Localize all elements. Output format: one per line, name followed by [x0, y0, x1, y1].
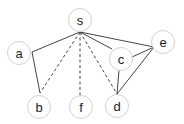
node-a: a: [8, 42, 31, 65]
node-s: s: [69, 9, 92, 32]
nodes-layer: sabfdce: [8, 9, 175, 119]
node-d: d: [106, 95, 129, 118]
edge-s-a: [32, 32, 80, 52]
node-b: b: [28, 96, 51, 119]
edge-s-b: [40, 32, 80, 93]
node-label: s: [77, 13, 84, 28]
edge-c-d: [117, 70, 119, 94]
node-label: e: [159, 35, 166, 50]
node-label: d: [113, 99, 120, 114]
edge-s-e: [80, 32, 154, 47]
graph-diagram: sabfdce: [0, 0, 184, 124]
graph-canvas: sabfdce: [0, 0, 184, 124]
node-label: f: [79, 100, 83, 115]
edges-layer: [32, 32, 154, 95]
edge-s-c: [80, 32, 112, 49]
node-f: f: [70, 96, 93, 119]
node-label: b: [35, 100, 42, 115]
node-label: a: [15, 46, 23, 61]
edge-a-b: [32, 52, 40, 93]
node-label: c: [118, 52, 125, 67]
node-e: e: [152, 31, 175, 54]
node-c: c: [110, 48, 133, 71]
